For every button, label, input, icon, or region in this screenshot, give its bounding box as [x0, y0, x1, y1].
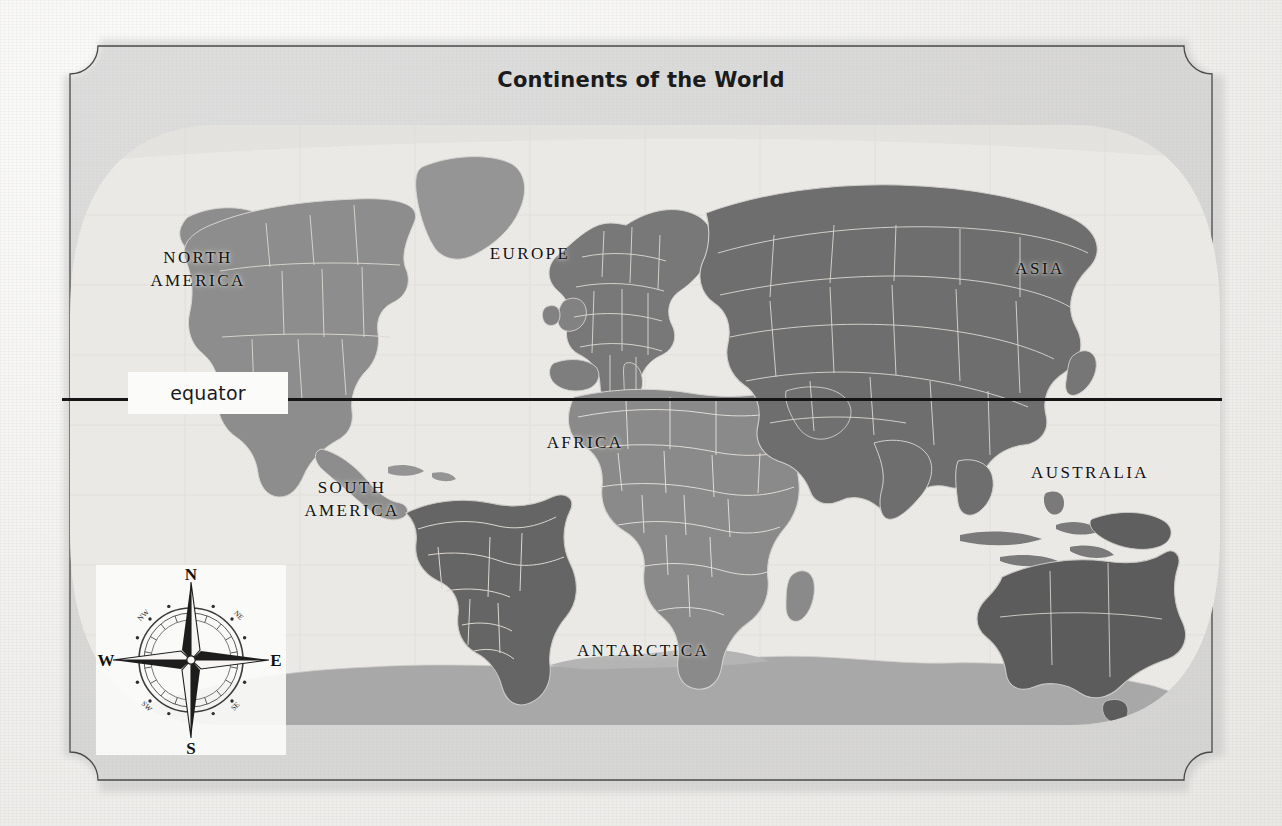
compass-hub — [187, 656, 195, 664]
equator-group: equator — [0, 398, 1282, 402]
continent-label-australia: AUSTRALIA — [1000, 462, 1180, 485]
continent-label-antarctica: ANTARCTICA — [538, 640, 748, 663]
page-title: Continents of the World — [0, 68, 1282, 92]
compass-label-northwest: NW — [136, 607, 152, 623]
continent-label-asia: ASIA — [955, 258, 1125, 281]
continent-label-north-america: NORTH AMERICA — [128, 247, 268, 293]
continent-label-africa: AFRICA — [500, 432, 670, 455]
compass-label-north: N — [185, 565, 198, 584]
equator-label: equator — [170, 382, 246, 404]
compass-label-west: W — [98, 651, 115, 670]
compass-rose: N S E W NW NE SW SE — [96, 565, 286, 755]
compass-label-east: E — [270, 651, 281, 670]
continent-label-south-america: SOUTH AMERICA — [282, 477, 422, 523]
equator-label-box: equator — [128, 372, 288, 414]
compass-label-northeast: NE — [232, 609, 246, 623]
map-page: Continents of the World — [0, 0, 1282, 826]
compass-rose-svg: N S E W NW NE SW SE — [96, 565, 286, 755]
continent-label-europe: EUROPE — [445, 243, 615, 266]
compass-label-southwest: SW — [140, 699, 155, 714]
compass-label-south: S — [186, 739, 195, 755]
